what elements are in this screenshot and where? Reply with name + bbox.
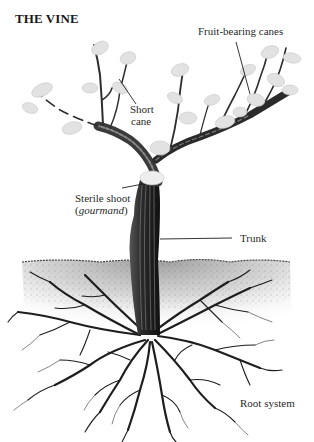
label-sterile-shoot-line1: Sterile shoot bbox=[75, 192, 130, 204]
label-short-cane: Short cane bbox=[130, 103, 154, 127]
label-root-system: Root system bbox=[240, 397, 295, 409]
label-gourmand: gourmand bbox=[79, 204, 124, 216]
label-short-cane-line1: Short bbox=[130, 103, 154, 115]
vine-diagram: THE VINE Fruit-bearing canes Short cane … bbox=[0, 0, 314, 442]
leader-trunk bbox=[160, 238, 232, 239]
label-sterile-shoot-line2: (gourmand) bbox=[75, 204, 130, 216]
vine-illustration bbox=[0, 0, 314, 442]
diagram-title: THE VINE bbox=[15, 11, 79, 27]
label-trunk: Trunk bbox=[240, 232, 267, 244]
label-short-cane-line2: cane bbox=[131, 115, 154, 127]
label-sterile-shoot: Sterile shoot (gourmand) bbox=[75, 192, 130, 216]
label-fruit-bearing-canes: Fruit-bearing canes bbox=[198, 25, 283, 37]
